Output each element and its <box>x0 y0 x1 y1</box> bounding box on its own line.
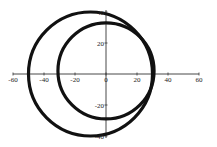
x-tick-label: -20 <box>70 76 80 84</box>
polar-curves-plot: -60-40-2002040604020-20-40 <box>0 0 217 147</box>
y-tick-label: -40 <box>95 133 105 141</box>
y-tick-label: -20 <box>95 102 105 110</box>
x-tick-label: 60 <box>196 76 204 84</box>
x-tick-label: 40 <box>165 76 173 84</box>
x-tick-label: 20 <box>134 76 142 84</box>
x-tick-label: 0 <box>104 76 108 84</box>
y-tick-label: 20 <box>97 40 105 48</box>
y-tick-label: 40 <box>97 9 105 17</box>
x-tick-label: -60 <box>8 76 18 84</box>
x-tick-label: -40 <box>39 76 49 84</box>
